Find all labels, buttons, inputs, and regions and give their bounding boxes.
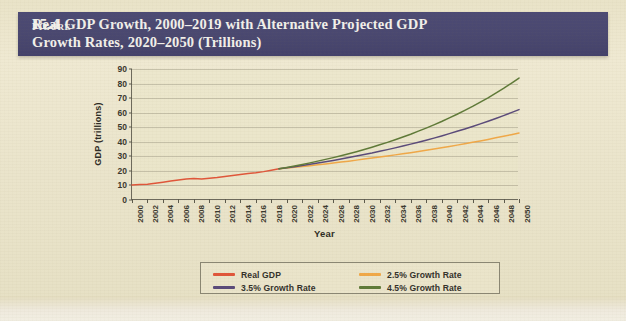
figure-title-line-2: Growth Rates, 2020–2050 (Trillions) [32, 34, 261, 51]
y-tick-label: 10 [118, 180, 127, 190]
legend-entry[interactable]: Real GDP [213, 268, 281, 281]
y-tick-label: 0 [122, 195, 127, 205]
y-axis-title: GDP (trillions) [93, 102, 103, 165]
series-line [279, 110, 519, 169]
x-tick-label: 2048 [507, 205, 516, 223]
y-tick-label: 80 [118, 79, 127, 89]
x-tick-label: 2002 [151, 205, 160, 223]
y-tick-label: 60 [118, 108, 127, 118]
figure-title-line-1: Real GDP Growth, 2000–2019 with Alternat… [32, 16, 427, 33]
x-tick-label: 2006 [182, 205, 191, 223]
x-tick-label: 2028 [352, 205, 361, 223]
x-tick-label: 2008 [197, 205, 206, 223]
x-tick-label: 2040 [445, 205, 454, 223]
plot-area: 0102030405060708090 20002002200420062008… [131, 69, 518, 200]
legend-entry[interactable]: 2.5% Growth Rate [359, 268, 462, 281]
x-tick-label: 2010 [213, 205, 222, 223]
x-tick-label: 2018 [275, 205, 284, 223]
legend-label: 3.5% Growth Rate [241, 283, 316, 293]
legend-label: 4.5% Growth Rate [387, 283, 462, 293]
legend-swatch [359, 273, 381, 275]
x-tick-label: 2038 [430, 205, 439, 223]
x-tick-label: 2004 [166, 205, 175, 223]
x-tick-label: 2050 [523, 205, 532, 223]
x-tick-label: 2034 [399, 205, 408, 223]
x-tick-label: 2012 [228, 205, 237, 223]
series-line [132, 169, 279, 185]
y-tick-label: 90 [118, 64, 127, 74]
legend-label: Real GDP [241, 270, 281, 280]
y-tick-label: 70 [118, 93, 127, 103]
legend-swatch [213, 273, 235, 275]
legend-label: 2.5% Growth Rate [387, 270, 462, 280]
y-tick-label: 50 [118, 122, 127, 132]
x-tick-label: 2036 [414, 205, 423, 223]
x-tick-label: 2026 [337, 205, 346, 223]
figure-page: Figure 15.4 Real GDP Growth, 2000–2019 w… [0, 0, 626, 321]
x-tick-label: 2022 [306, 205, 315, 223]
y-tick-label: 30 [118, 151, 127, 161]
y-tick-label: 20 [118, 166, 127, 176]
x-tick-label: 2046 [492, 205, 501, 223]
legend-swatch [359, 286, 381, 288]
chart-legend: Real GDP2.5% Growth Rate3.5% Growth Rate… [200, 262, 500, 294]
x-tick-label: 2044 [476, 205, 485, 223]
figure-header-band: Figure 15.4 Real GDP Growth, 2000–2019 w… [18, 12, 608, 56]
x-tick-label: 2014 [244, 205, 253, 223]
chart-container: GDP (trillions) 0102030405060708090 2000… [100, 62, 530, 242]
x-tick-label: 2042 [461, 205, 470, 223]
x-tick-label: 2000 [136, 205, 145, 223]
x-tick-label: 2024 [321, 205, 330, 223]
x-tick-mark [519, 199, 520, 203]
x-tick-label: 2032 [383, 205, 392, 223]
y-tick-label: 40 [118, 137, 127, 147]
x-tick-label: 2016 [259, 205, 268, 223]
series-lines [132, 69, 519, 200]
legend-entry[interactable]: 4.5% Growth Rate [359, 281, 462, 294]
x-tick-label: 2020 [290, 205, 299, 223]
source-note-band [0, 296, 626, 321]
x-tick-label: 2030 [368, 205, 377, 223]
legend-swatch [213, 286, 235, 288]
legend-entry[interactable]: 3.5% Growth Rate [213, 281, 316, 294]
x-axis-title: Year [131, 228, 518, 239]
